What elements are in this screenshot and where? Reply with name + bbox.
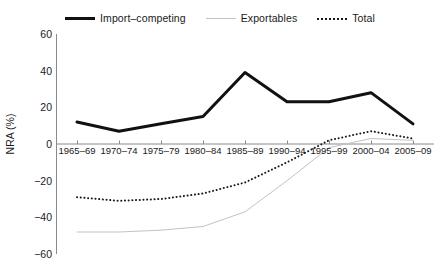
- y-axis-title-text: NRA (%): [4, 113, 16, 154]
- legend-label-total: Total: [352, 12, 375, 24]
- legend-item-exportables: Exportables: [206, 12, 298, 24]
- line-solid-thick-icon: [65, 13, 95, 23]
- chart-figure: Import–competing Exportables Total NRA (…: [0, 0, 440, 267]
- legend-label-exportables: Exportables: [241, 12, 298, 24]
- line-dotted-icon: [317, 13, 347, 23]
- x-axis-tick-label: 1975–79: [143, 145, 180, 156]
- y-axis-tick-label: −40: [26, 211, 52, 223]
- y-axis-tick-label: −60: [26, 248, 52, 260]
- x-axis-tick-label: 1970–74: [101, 145, 138, 156]
- legend-item-total: Total: [317, 12, 375, 24]
- chart-legend: Import–competing Exportables Total: [0, 10, 440, 26]
- series-line-import-competing: [77, 73, 413, 132]
- x-axis-tick-label: 1995–99: [311, 145, 348, 156]
- y-axis-tick-label: 60: [26, 28, 52, 40]
- x-axis-tick-label: 1965–69: [59, 145, 96, 156]
- legend-item-import-competing: Import–competing: [65, 12, 186, 24]
- line-solid-thin-icon: [206, 13, 236, 23]
- legend-label-import-competing: Import–competing: [100, 12, 186, 24]
- y-axis-title: NRA (%): [2, 0, 18, 267]
- y-axis-tick-label: −20: [26, 175, 52, 187]
- y-axis-tick-label: 40: [26, 65, 52, 77]
- x-axis-tick-label: 1980–84: [185, 145, 222, 156]
- y-axis-tick-label: 20: [26, 101, 52, 113]
- plot-area: [56, 34, 434, 254]
- x-axis-tick-label: 2005–09: [395, 145, 432, 156]
- x-axis-tick-label: 2000–04: [353, 145, 390, 156]
- x-axis-tick-labels: 1965–691970–741975–791980–841985–891990–…: [56, 145, 434, 159]
- y-axis-tick-label: 0: [26, 138, 52, 150]
- x-axis-tick-label: 1990–94: [269, 145, 306, 156]
- x-axis-tick-label: 1985–89: [227, 145, 264, 156]
- y-axis-tick-labels: 6040200−20−40−60: [22, 34, 52, 254]
